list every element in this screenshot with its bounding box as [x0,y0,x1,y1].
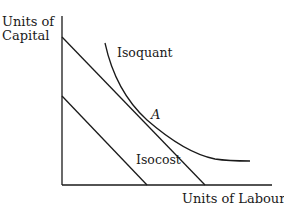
tangent-point-label: A [150,107,160,122]
isocost-label: Isocost [136,152,181,167]
x-axis-label: Units of Labour [182,191,284,206]
isoquant-isocost-diagram: Units of Capital Units of Labour Isoquan… [0,0,284,211]
isoquant-curve [105,43,250,161]
isoquant-label: Isoquant [117,45,172,60]
y-axis-label-line1: Units of [2,14,55,29]
y-axis-label-line2: Capital [2,28,49,43]
isocost-line-lower [62,96,147,185]
